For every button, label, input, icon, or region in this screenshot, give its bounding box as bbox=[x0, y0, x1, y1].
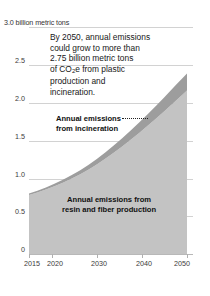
callout-line-5: production and bbox=[50, 76, 105, 86]
x-tick-mark-2020 bbox=[52, 254, 53, 258]
series-label-incineration: Annual emissions from incineration bbox=[56, 114, 148, 133]
callout-line-4a: of CO bbox=[50, 64, 72, 74]
callout-line-4b: e from plastic bbox=[75, 64, 125, 74]
leader-line-icon bbox=[122, 118, 148, 119]
x-tick-mark-2015 bbox=[29, 254, 30, 258]
x-tick-2050: 2050 bbox=[174, 260, 190, 268]
callout-line-3: 2.75 billion metric tons bbox=[50, 53, 133, 63]
callout-annotation: By 2050, annual emissions could grow to … bbox=[50, 32, 158, 98]
callout-line-1: By 2050, annual emissions bbox=[50, 32, 150, 42]
y-tick-1-0: 1.0 bbox=[0, 171, 25, 179]
y-tick-0: 0 bbox=[0, 246, 25, 254]
x-tick-2015: 2015 bbox=[24, 260, 40, 268]
x-tick-2030: 2030 bbox=[91, 260, 107, 268]
series-label-incineration-line1: Annual emissions bbox=[56, 114, 121, 123]
x-tick-2040: 2040 bbox=[136, 260, 152, 268]
y-tick-2-0: 2.0 bbox=[0, 95, 25, 103]
x-tick-mark-2040 bbox=[142, 254, 143, 258]
x-tick-mark-2030 bbox=[97, 254, 98, 258]
y-axis-top-label: 3.0 billion metric tons bbox=[4, 19, 69, 27]
x-tick-2020: 2020 bbox=[47, 260, 63, 268]
x-axis-line bbox=[29, 254, 193, 255]
y-tick-0-5: 0.5 bbox=[0, 208, 25, 216]
series-label-incineration-line2: from incineration bbox=[56, 124, 118, 133]
series-label-resin-fiber: Annual emissions from resin and fiber pr… bbox=[62, 195, 156, 214]
series-label-resin-line1: Annual emissions from bbox=[67, 195, 151, 204]
y-tick-2-5: 2.5 bbox=[0, 57, 25, 65]
x-tick-mark-2050 bbox=[187, 254, 188, 258]
callout-line-6: incineration. bbox=[50, 87, 95, 97]
series-label-resin-line2: resin and fiber production bbox=[62, 205, 156, 214]
callout-line-2: could grow to more than bbox=[50, 43, 140, 53]
emissions-area-chart: 3.0 billion metric tons 2.5 2.0 1.5 1.0 … bbox=[0, 0, 210, 296]
y-tick-1-5: 1.5 bbox=[0, 133, 25, 141]
